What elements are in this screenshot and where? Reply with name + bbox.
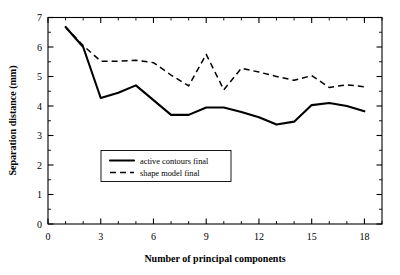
x-tick-label: 6	[151, 231, 156, 242]
x-tick-label: 3	[98, 231, 103, 242]
y-tick-label: 1	[37, 189, 42, 200]
y-tick-label: 3	[37, 130, 42, 141]
chart-figure: 01234567 0369121518 Separation distance …	[0, 0, 400, 275]
y-tick-label: 6	[37, 42, 42, 53]
legend-label-active-contours-final: active contours final	[140, 157, 209, 166]
x-axis-title: Number of principal components	[144, 253, 285, 264]
separation-distance-line-chart: 01234567 0369121518 Separation distance …	[0, 0, 400, 275]
chart-background	[0, 0, 400, 275]
x-tick-label: 12	[254, 231, 264, 242]
y-tick-label: 7	[37, 12, 42, 23]
y-tick-label: 0	[37, 219, 42, 230]
chart-legend: active contours final shape model final	[101, 151, 231, 182]
x-tick-label: 15	[307, 231, 317, 242]
y-tick-label: 2	[37, 160, 42, 171]
x-tick-label: 9	[204, 231, 209, 242]
legend-label-shape-model-final: shape model final	[140, 169, 200, 178]
x-tick-label: 18	[359, 231, 369, 242]
y-tick-label: 4	[37, 101, 42, 112]
x-tick-label: 0	[46, 231, 51, 242]
y-tick-label: 5	[37, 71, 42, 82]
y-axis-title: Separation distance (mm)	[7, 66, 19, 176]
